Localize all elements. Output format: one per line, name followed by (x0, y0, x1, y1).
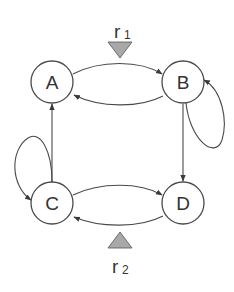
r1-label-sub: 1 (124, 28, 131, 42)
node-c: C (31, 182, 73, 224)
node-d: D (162, 182, 204, 224)
node-c-label: C (45, 193, 59, 214)
edge-b-to-a (74, 95, 163, 105)
node-b-label: B (177, 72, 190, 93)
input-r2: r 2 (108, 232, 132, 277)
node-d-label: D (176, 193, 190, 214)
node-a-label: A (46, 72, 59, 93)
down-triangle-icon (108, 42, 132, 58)
edge-d-to-c (74, 216, 163, 225)
node-b: B (162, 61, 204, 103)
edge-a-to-b (73, 64, 162, 75)
state-diagram: r 1 r 2 A B C (0, 0, 234, 292)
r2-label-sub: 2 (122, 263, 129, 277)
up-triangle-icon (108, 232, 132, 248)
edge-c-to-d (73, 185, 162, 195)
r2-label-main: r (112, 256, 119, 277)
r1-label-main: r (114, 21, 121, 42)
node-a: A (31, 61, 73, 103)
input-r1: r 1 (108, 21, 132, 58)
